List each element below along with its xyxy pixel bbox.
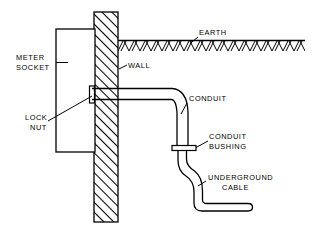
diagram-canvas: EARTH WALL METER SOCKET LOCK NUT CONDUIT… [0, 0, 321, 239]
wall-hatch-fill [94, 12, 118, 222]
conduit-bushing [172, 146, 196, 151]
technical-diagram: EARTH WALL METER SOCKET LOCK NUT CONDUIT… [0, 0, 321, 239]
label-earth: EARTH [199, 28, 227, 37]
label-lock-nut-line1: LOCK [25, 113, 47, 122]
label-wall: WALL [128, 61, 150, 70]
conduit-bushing-flange [172, 146, 196, 151]
label-conduit-bushing-line1: CONDUIT [209, 132, 247, 141]
label-lock-nut-line2: NUT [30, 123, 47, 132]
diagram-background [0, 0, 321, 239]
label-conduit-bushing-line2: BUSHING [209, 142, 247, 151]
label-conduit: CONDUIT [189, 94, 227, 103]
wall [94, 12, 118, 222]
label-underground-cable-line2: CABLE [222, 183, 249, 192]
label-meter-socket-line2: SOCKET [16, 63, 50, 72]
label-underground-cable-line1: UNDERGROUND [208, 173, 273, 182]
label-meter-socket-line1: METER [16, 53, 45, 62]
